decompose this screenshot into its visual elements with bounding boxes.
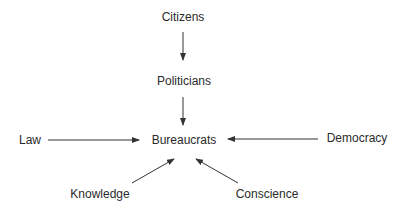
node-bureaucrats: Bureaucrats: [152, 133, 217, 147]
node-democracy: Democracy: [327, 131, 388, 145]
node-citizens: Citizens: [162, 10, 205, 24]
node-law: Law: [19, 133, 41, 147]
diagram-edges: [0, 0, 402, 212]
node-politicians: Politicians: [157, 74, 211, 88]
edge-conscience-bureaucrats: [196, 159, 238, 183]
node-conscience: Conscience: [236, 187, 299, 201]
edge-knowledge-bureaucrats: [132, 159, 174, 183]
node-knowledge: Knowledge: [70, 187, 129, 201]
